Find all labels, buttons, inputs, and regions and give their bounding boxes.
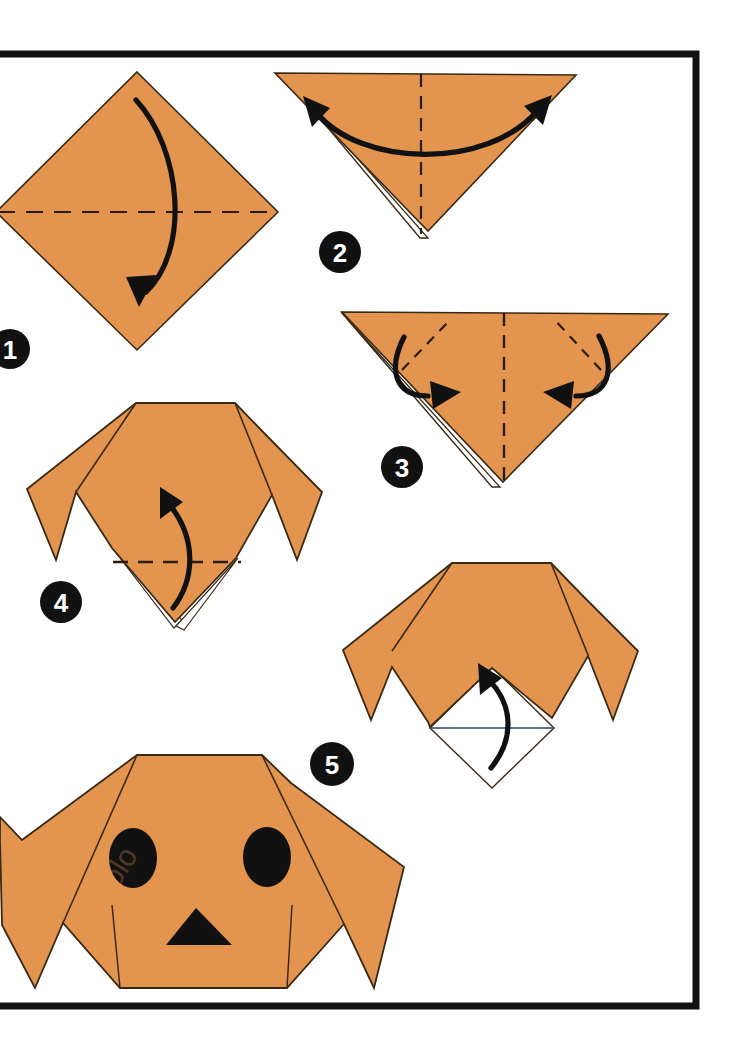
step-badge-label: 4 [54, 588, 69, 618]
step-badge-label: 5 [325, 750, 339, 780]
origami-instruction-page: 1 2 3 4 [0, 0, 736, 1046]
step-5-badge: 5 [310, 742, 354, 786]
step-3-badge: 3 [381, 446, 423, 488]
step-4-badge: 4 [40, 581, 82, 623]
origami-diagram: 1 2 3 4 [0, 0, 736, 1046]
step-badge-label: 3 [395, 453, 409, 483]
step-badge-label: 2 [333, 238, 347, 268]
step-2-badge: 2 [319, 231, 361, 273]
right-eye [243, 827, 291, 887]
step-badge-label: 1 [3, 335, 17, 365]
